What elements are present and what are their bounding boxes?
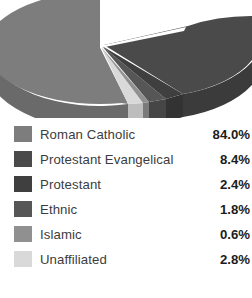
legend-row: Ethnic 1.8% — [0, 197, 252, 222]
pie-slice-side-ethnic — [149, 99, 166, 118]
legend-row: Roman Catholic 84.0% — [0, 122, 252, 147]
legend-swatch-ethnic — [14, 201, 32, 217]
legend-value-islamic: 0.6% — [220, 222, 250, 247]
legend-swatch-protestant — [14, 176, 32, 192]
legend-value-protestant: 2.4% — [220, 172, 250, 197]
legend-row: Protestant 2.4% — [0, 172, 252, 197]
legend-row: Unaffiliated 2.8% — [0, 247, 252, 272]
legend-value-roman-catholic: 84.0% — [213, 122, 250, 147]
legend-label-protestant: Protestant — [40, 172, 101, 197]
legend-label-ethnic: Ethnic — [40, 197, 77, 222]
legend-swatch-unaffiliated — [14, 251, 32, 267]
legend-label-roman-catholic: Roman Catholic — [40, 122, 135, 147]
chart-legend: Roman Catholic 84.0% Protestant Evangeli… — [0, 122, 252, 272]
legend-swatch-roman-catholic — [14, 126, 32, 142]
pie-chart-graphic — [0, 0, 252, 118]
pie-slice-side-unaffiliated — [128, 103, 143, 118]
legend-value-ethnic: 1.8% — [220, 197, 250, 222]
legend-swatch-islamic — [14, 226, 32, 242]
legend-value-protestant-evangelical: 8.4% — [220, 147, 250, 172]
pie-svg — [0, 0, 252, 118]
pie-chart-figure: Roman Catholic 84.0% Protestant Evangeli… — [0, 0, 252, 298]
pie-slice-side-islamic — [143, 102, 149, 118]
legend-label-islamic: Islamic — [40, 222, 82, 247]
legend-label-unaffiliated: Unaffiliated — [40, 247, 107, 272]
legend-row: Islamic 0.6% — [0, 222, 252, 247]
legend-row: Protestant Evangelical 8.4% — [0, 147, 252, 172]
legend-label-protestant-evangelical: Protestant Evangelical — [40, 147, 173, 172]
legend-value-unaffiliated: 2.8% — [220, 247, 250, 272]
legend-swatch-protestant-evangelical — [14, 151, 32, 167]
